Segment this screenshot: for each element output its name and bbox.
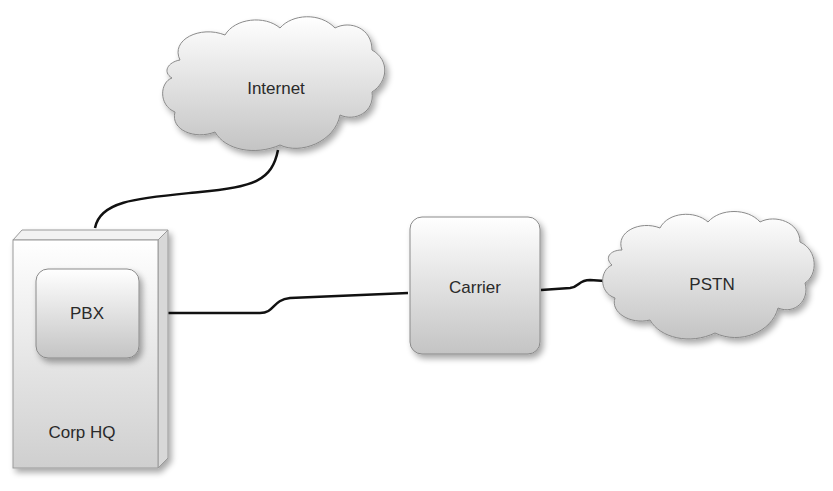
- corp-hq-label: Corp HQ: [48, 423, 115, 442]
- pstn-label: PSTN: [689, 275, 734, 294]
- internet-label: Internet: [247, 79, 305, 98]
- carrier-label: Carrier: [449, 278, 501, 297]
- edge-corp-hq-internet: [95, 150, 278, 228]
- pbx-label: PBX: [70, 304, 104, 323]
- edge-pbx-carrier: [140, 293, 408, 313]
- edge-carrier-pstn: [541, 280, 605, 290]
